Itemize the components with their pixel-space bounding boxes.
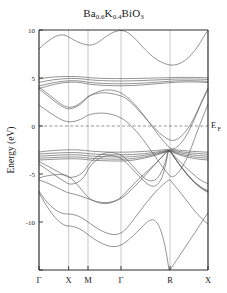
xtick-label-gamma1: Γ xyxy=(37,275,42,285)
fermi-level-label: E F xyxy=(211,120,222,132)
ytick-label-0: 0 xyxy=(32,123,36,131)
ytick-label-10: 10 xyxy=(28,27,36,35)
xtick-label-x2: X xyxy=(205,275,211,285)
ytick-label-5: 5 xyxy=(32,75,36,83)
y-axis-title: Energy (eV) xyxy=(6,126,17,173)
xtick-label-m: M xyxy=(84,275,92,285)
band-structure-plot: 10 5 0 -5 -10 Energy (eV) Γ X M Γ R X E xyxy=(0,0,227,293)
xtick-label-r: R xyxy=(167,275,173,285)
ytick-label-minus5: -5 xyxy=(29,171,35,179)
y-axis-tick-labels: 10 5 0 -5 -10 xyxy=(26,27,36,227)
xtick-label-gamma2: Γ xyxy=(119,275,124,285)
xtick-label-x1: X xyxy=(66,275,72,285)
band-structure-figure: Ba0.6K0.4BiO3 xyxy=(0,0,227,293)
ytick-label-minus10: -10 xyxy=(26,219,36,227)
fermi-label-subscript-F: F xyxy=(218,126,222,132)
fermi-label-E: E xyxy=(211,120,216,130)
x-axis-tick-labels: Γ X M Γ R X xyxy=(37,275,212,285)
